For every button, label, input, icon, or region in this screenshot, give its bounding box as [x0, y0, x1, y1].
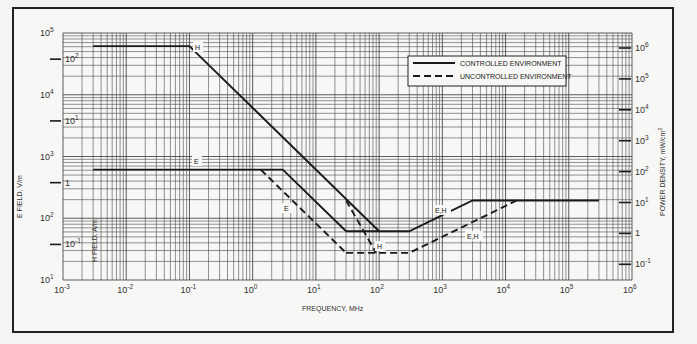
x-tick-label: 105: [560, 283, 574, 295]
label-h-controlled: H: [195, 44, 200, 51]
power-density-tick-label: 103: [635, 134, 649, 146]
y-axis-label-h-field: H FIELD, A/m: [91, 219, 98, 262]
y-tick-label: 103: [40, 150, 54, 162]
power-density-tick-label: 102: [635, 165, 649, 177]
power-density-tick-label: 10-1: [635, 257, 651, 269]
x-tick-label: 10-1: [180, 283, 196, 295]
chart: 10-310-210-11001011021031041051061011021…: [0, 0, 697, 344]
curve-controlled-environment-h: [93, 46, 379, 231]
x-tick-label: 101: [307, 283, 321, 295]
label-h-uncontrolled: H: [377, 243, 382, 250]
label-eh-controlled: E,H: [435, 207, 447, 214]
y-tick-label: 101: [40, 273, 54, 285]
y-tick-label: 102: [40, 211, 54, 223]
x-tick-label: 10-2: [117, 283, 133, 295]
x-tick-label: 106: [623, 283, 637, 295]
h-field-tick-label: 101: [65, 114, 79, 126]
power-density-tick-label: 104: [635, 103, 649, 115]
h-field-tick-label: 102: [65, 52, 79, 64]
power-density-tick-label: 101: [635, 196, 649, 208]
power-density-tick-label: 1: [635, 228, 640, 238]
h-field-tick-label: 1: [65, 178, 70, 188]
legend: CONTROLLED ENVIRONMENT UNCONTROLLED ENVI…: [408, 56, 572, 86]
x-tick-label: 104: [497, 283, 511, 295]
power-density-tick-label: 106: [635, 41, 649, 53]
curve-uncontrolled-environment-e-h: [346, 201, 517, 253]
y-tick-label: 105: [40, 26, 54, 38]
power-density-tick-label: 105: [635, 72, 649, 84]
y-axis-label-e-field: E FIELD, V/m: [16, 175, 23, 218]
x-tick-label: 102: [370, 283, 384, 295]
x-tick-label: 10-3: [54, 283, 70, 295]
y-tick-label: 104: [40, 88, 54, 100]
label-e-controlled: E: [194, 158, 199, 165]
legend-uncontrolled: UNCONTROLLED ENVIRONMENT: [460, 73, 572, 80]
x-axis-label: FREQUENCY, MHz: [302, 305, 364, 313]
x-tick-label: 100: [244, 283, 258, 295]
y-axis-label-power-density: POWER DENSITY, mW/cm2: [657, 128, 666, 216]
h-field-tick-label: 10-1: [65, 237, 81, 249]
curve-uncontrolled-environment-h: [346, 201, 376, 253]
curve-uncontrolled-environment-e: [261, 170, 346, 253]
label-e-uncontrolled: E: [284, 205, 289, 212]
x-tick-label: 103: [433, 283, 447, 295]
legend-controlled: CONTROLLED ENVIRONMENT: [460, 60, 562, 67]
label-eh-uncontrolled: E,H: [467, 233, 479, 240]
